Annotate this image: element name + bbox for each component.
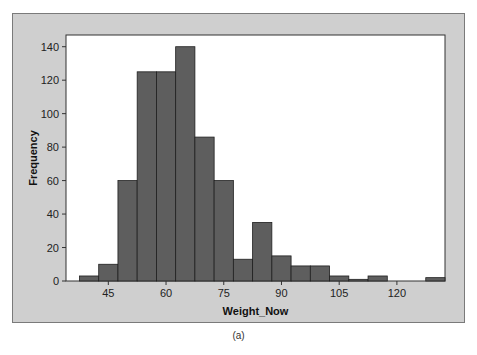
y-axis-label: Frequency [27,129,39,186]
histogram-bar [330,276,349,281]
histogram-bar [137,72,156,281]
histogram-bar [176,47,195,281]
x-tick-label: 120 [388,287,406,299]
x-tick-label: 60 [160,287,172,299]
histogram-bar [253,222,272,281]
y-tick-label: 140 [41,41,59,53]
x-tick-label: 75 [218,287,230,299]
y-tick-label: 80 [47,141,59,153]
x-tick-label: 45 [102,287,114,299]
y-tick-label: 100 [41,108,59,120]
y-tick-label: 20 [47,242,59,254]
histogram-bar [195,137,214,281]
y-tick-label: 60 [47,175,59,187]
histogram-bar [291,266,310,281]
y-tick-label: 120 [41,74,59,86]
histogram-bar [310,266,329,281]
histogram-bar [214,181,233,281]
histogram-bar [426,278,445,281]
histogram-bar [99,264,118,281]
histogram-bar [118,181,137,281]
histogram-bar [368,276,387,281]
histogram-bar [272,256,291,281]
y-tick-label: 0 [53,275,59,287]
x-axis-label: Weight_Now [223,305,289,317]
histogram-bar [156,72,175,281]
x-tick-label: 90 [275,287,287,299]
histogram-bar [349,279,368,281]
figure-caption: (a) [0,330,477,341]
y-tick-label: 40 [47,208,59,220]
histogram-chart: 02040608010012014045607590105120Weight_N… [0,0,477,330]
histogram-bar [233,259,252,281]
x-tick-label: 105 [330,287,348,299]
histogram-bar [79,276,98,281]
